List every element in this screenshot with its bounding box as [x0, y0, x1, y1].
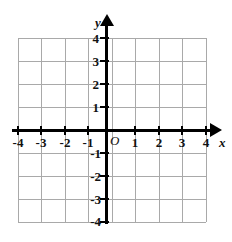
y-axis-label: y — [95, 16, 101, 29]
gridline-horizontal — [18, 153, 206, 154]
x-axis-tick — [64, 126, 66, 135]
y-tick-label: -4 — [90, 215, 101, 228]
origin-label: O — [110, 134, 119, 147]
y-axis-tick — [100, 106, 109, 108]
coordinate-plane-figure: x y -4 -3 -2 -1 1 2 3 4 4 3 2 1 -1 -2 -3… — [0, 0, 232, 242]
y-tick-label: 4 — [93, 32, 100, 45]
y-axis-tick — [100, 83, 109, 85]
y-tick-label: 3 — [93, 55, 100, 68]
gridline-horizontal — [18, 61, 206, 62]
y-axis-tick — [100, 60, 109, 62]
x-tick-label: -4 — [13, 136, 24, 149]
gridline-horizontal — [18, 222, 206, 223]
x-tick-label: -3 — [36, 136, 47, 149]
y-axis-line — [105, 26, 108, 224]
gridline-horizontal — [18, 199, 206, 200]
x-axis-tick — [87, 126, 89, 135]
y-axis-arrowhead-icon — [100, 14, 114, 26]
x-axis-tick — [158, 126, 160, 135]
x-axis-tick — [134, 126, 136, 135]
y-tick-label: -1 — [90, 147, 101, 160]
gridline-horizontal — [18, 38, 206, 39]
x-tick-label: 4 — [203, 136, 210, 149]
x-tick-label: 2 — [156, 136, 163, 149]
x-axis-tick — [181, 126, 183, 135]
y-axis-tick — [100, 37, 109, 39]
y-axis-tick — [100, 221, 109, 223]
y-tick-label: -2 — [90, 170, 101, 183]
x-axis-tick — [205, 126, 207, 135]
y-tick-label: 1 — [93, 101, 100, 114]
y-axis-tick — [100, 175, 109, 177]
gridline-horizontal — [18, 84, 206, 85]
gridline-horizontal — [18, 107, 206, 108]
x-tick-label: 1 — [132, 136, 139, 149]
y-axis-tick — [100, 152, 109, 154]
x-axis-label: x — [219, 136, 226, 149]
x-tick-label: 3 — [179, 136, 186, 149]
gridline-horizontal — [18, 176, 206, 177]
x-axis-tick — [40, 126, 42, 135]
y-tick-label: 2 — [93, 78, 100, 91]
x-tick-label: -2 — [60, 136, 71, 149]
x-axis-tick — [17, 126, 19, 135]
y-tick-label: -3 — [90, 193, 101, 206]
y-axis-tick — [100, 198, 109, 200]
